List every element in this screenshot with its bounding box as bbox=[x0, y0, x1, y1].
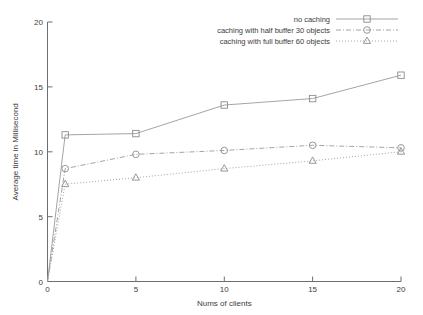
data-point-2-2 bbox=[132, 174, 139, 180]
legend-keys bbox=[336, 16, 398, 44]
line-chart: 0 5 10 15 20 0 5 10 15 20 Nums of client… bbox=[0, 0, 423, 315]
x-tick-label-15: 15 bbox=[308, 285, 317, 294]
y-tick-label-0: 0 bbox=[39, 278, 44, 287]
x-axis-title: Nums of clients bbox=[197, 299, 252, 308]
series-layer bbox=[48, 72, 405, 282]
series-2 bbox=[48, 148, 405, 282]
series-line-1 bbox=[48, 145, 402, 281]
data-point-2-3 bbox=[221, 165, 228, 171]
legend-label-1: caching with half buffer 30 objects bbox=[217, 26, 330, 35]
legend: no caching caching with half buffer 30 o… bbox=[217, 15, 398, 46]
legend-label-2: caching with full buffer 60 objects bbox=[220, 37, 331, 46]
data-point-2-4 bbox=[309, 157, 316, 163]
y-axis-title: Average time in Millisecond bbox=[11, 103, 20, 200]
legend-label-0: no caching bbox=[294, 15, 330, 24]
legend-marker-2 bbox=[363, 37, 370, 43]
x-tick-label-10: 10 bbox=[220, 285, 229, 294]
series-line-0 bbox=[48, 75, 402, 281]
chart-container: 0 5 10 15 20 0 5 10 15 20 Nums of client… bbox=[0, 0, 423, 315]
y-tick-label-15: 15 bbox=[34, 83, 43, 92]
x-tick-label-0: 0 bbox=[45, 285, 50, 294]
y-tick-label-5: 5 bbox=[39, 213, 44, 222]
series-0 bbox=[48, 72, 405, 282]
data-point-0-5 bbox=[398, 72, 404, 78]
y-tick-label-20: 20 bbox=[34, 18, 43, 27]
y-tick-label-10: 10 bbox=[34, 148, 43, 157]
series-1 bbox=[48, 142, 405, 282]
data-point-1-2 bbox=[133, 151, 140, 158]
x-tick-label-20: 20 bbox=[397, 285, 406, 294]
x-tick-label-5: 5 bbox=[134, 285, 139, 294]
